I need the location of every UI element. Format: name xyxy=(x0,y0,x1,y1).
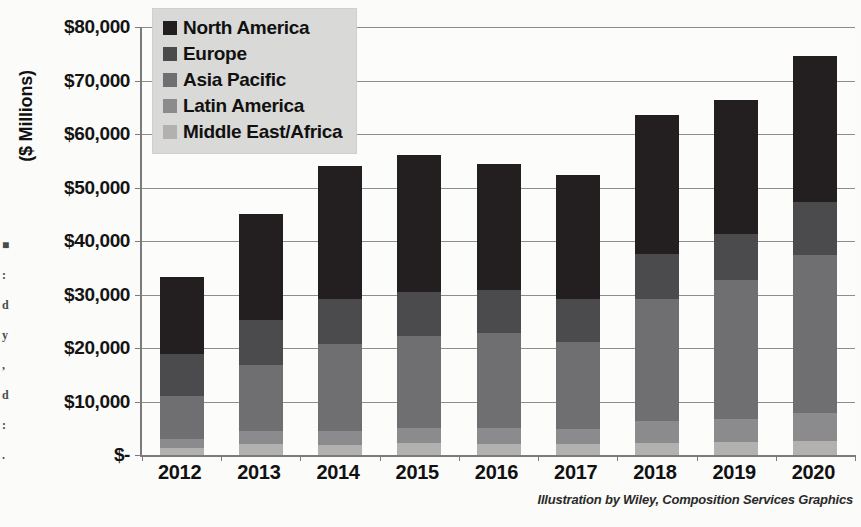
bar-segment[interactable] xyxy=(397,292,441,336)
bar-segment[interactable] xyxy=(556,342,600,429)
bar-segment[interactable] xyxy=(477,164,521,290)
bar-segment[interactable] xyxy=(239,320,283,365)
bar-segment[interactable] xyxy=(714,419,758,442)
legend-item-label: Europe xyxy=(183,43,247,65)
bar-segment[interactable] xyxy=(556,175,600,300)
x-axis-tick-label: 2020 xyxy=(773,461,853,484)
chart-legend: North AmericaEuropeAsia PacificLatin Ame… xyxy=(152,8,357,154)
y-axis-tick-label: $40,000 xyxy=(34,230,130,252)
bar-segment[interactable] xyxy=(397,155,441,292)
bar-segment[interactable] xyxy=(714,100,758,234)
bar-group[interactable] xyxy=(477,27,521,455)
bar-segment[interactable] xyxy=(239,444,283,455)
bar-segment[interactable] xyxy=(635,421,679,442)
y-axis-tick-labels: $-$10,000$20,000$30,000$40,000$50,000$60… xyxy=(34,0,130,470)
bar-segment[interactable] xyxy=(714,442,758,455)
y-axis-tick-label: $20,000 xyxy=(34,337,130,359)
legend-item[interactable]: Middle East/Africa xyxy=(163,119,342,145)
bar-segment[interactable] xyxy=(477,428,521,444)
y-axis-tickmark xyxy=(135,402,142,403)
bar-group[interactable] xyxy=(556,27,600,455)
bar-group[interactable] xyxy=(635,27,679,455)
legend-item-label: Middle East/Africa xyxy=(183,121,342,143)
bar-segment[interactable] xyxy=(556,444,600,455)
bar-segment[interactable] xyxy=(239,431,283,444)
x-axis-tick-label: 2019 xyxy=(694,461,774,484)
legend-swatch-icon xyxy=(163,73,177,87)
bar-segment[interactable] xyxy=(793,441,837,455)
y-axis-tickmark xyxy=(135,241,142,242)
y-axis-tickmark xyxy=(135,81,142,82)
legend-swatch-icon xyxy=(163,21,177,35)
bar-segment[interactable] xyxy=(160,439,204,448)
legend-swatch-icon xyxy=(163,47,177,61)
x-axis-tick-label: 2014 xyxy=(298,461,378,484)
bar-segment[interactable] xyxy=(793,202,837,255)
bar-segment[interactable] xyxy=(477,444,521,455)
bar-segment[interactable] xyxy=(318,431,362,445)
stacked-bar-chart: ($ Millions) $-$10,000$20,000$30,000$40,… xyxy=(0,0,861,527)
y-axis-tick-label: $30,000 xyxy=(34,284,130,306)
legend-item[interactable]: Latin America xyxy=(163,93,342,119)
bar-segment[interactable] xyxy=(397,428,441,443)
bar-segment[interactable] xyxy=(397,443,441,455)
bar-segment[interactable] xyxy=(714,234,758,279)
y-axis-tickmark xyxy=(135,134,142,135)
legend-swatch-icon xyxy=(163,125,177,139)
bar-segment[interactable] xyxy=(160,277,204,354)
y-axis-tick-label: $70,000 xyxy=(34,70,130,92)
bar-segment[interactable] xyxy=(160,354,204,396)
bar-group[interactable] xyxy=(714,27,758,455)
bar-segment[interactable] xyxy=(160,396,204,439)
bar-segment[interactable] xyxy=(635,443,679,455)
x-axis-tick-label: 2013 xyxy=(219,461,299,484)
bar-segment[interactable] xyxy=(556,299,600,341)
x-axis-tick-labels: 201220132014201520162017201820192020 xyxy=(140,461,853,495)
y-axis-tickmark xyxy=(135,188,142,189)
x-axis-tick-label: 2017 xyxy=(536,461,616,484)
bar-segment[interactable] xyxy=(318,445,362,455)
credit-line: Illustration by Wiley, Composition Servi… xyxy=(537,492,853,507)
bar-segment[interactable] xyxy=(477,290,521,333)
bar-segment[interactable] xyxy=(556,429,600,445)
y-axis-tickmark xyxy=(135,348,142,349)
x-axis-tick-label: 2018 xyxy=(615,461,695,484)
legend-item-label: Asia Pacific xyxy=(183,69,286,91)
y-axis-tickmark xyxy=(135,27,142,28)
legend-item-label: Latin America xyxy=(183,95,304,117)
legend-swatch-icon xyxy=(163,99,177,113)
bar-segment[interactable] xyxy=(793,255,837,413)
y-axis-tick-label: $80,000 xyxy=(34,16,130,38)
bar-segment[interactable] xyxy=(239,214,283,320)
legend-item[interactable]: North America xyxy=(163,15,342,41)
bar-segment[interactable] xyxy=(318,166,362,300)
y-axis-tick-label: $50,000 xyxy=(34,177,130,199)
bar-group[interactable] xyxy=(397,27,441,455)
bar-segment[interactable] xyxy=(714,280,758,419)
y-axis-tick-label: $10,000 xyxy=(34,391,130,413)
y-axis-tick-label: $60,000 xyxy=(34,123,130,145)
bar-segment[interactable] xyxy=(635,254,679,298)
y-axis-tick-label: $- xyxy=(34,444,130,466)
y-axis-tickmark xyxy=(135,295,142,296)
x-axis-tick-label: 2016 xyxy=(457,461,537,484)
bar-segment[interactable] xyxy=(318,344,362,431)
bar-segment[interactable] xyxy=(793,413,837,440)
legend-item[interactable]: Asia Pacific xyxy=(163,67,342,93)
bar-segment[interactable] xyxy=(635,299,679,422)
bar-segment[interactable] xyxy=(160,448,204,455)
legend-item[interactable]: Europe xyxy=(163,41,342,67)
bar-segment[interactable] xyxy=(477,333,521,429)
x-axis-tickmark xyxy=(855,455,856,461)
bar-segment[interactable] xyxy=(635,115,679,255)
bar-segment[interactable] xyxy=(793,56,837,202)
y-axis-tickmark xyxy=(135,455,142,456)
bar-group[interactable] xyxy=(793,27,837,455)
bar-segment[interactable] xyxy=(318,299,362,344)
x-axis-tick-label: 2012 xyxy=(140,461,220,484)
x-axis-tick-label: 2015 xyxy=(377,461,457,484)
legend-item-label: North America xyxy=(183,17,309,39)
bar-segment[interactable] xyxy=(239,365,283,431)
bar-segment[interactable] xyxy=(397,336,441,429)
